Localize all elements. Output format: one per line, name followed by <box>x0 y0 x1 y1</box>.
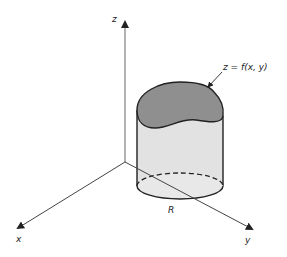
surface-label: z = f(x, y) <box>222 62 268 72</box>
x-axis <box>18 162 125 228</box>
surface-leader-arrow <box>208 72 222 87</box>
region-label: R <box>168 205 174 215</box>
top-surface <box>137 82 223 128</box>
z-axis-label: z <box>111 14 117 24</box>
solid-under-surface-diagram: z x y z = f(x, y) R <box>0 0 287 257</box>
x-axis-label: x <box>15 234 22 244</box>
base-region-r <box>137 173 223 199</box>
y-axis-label: y <box>244 235 251 245</box>
